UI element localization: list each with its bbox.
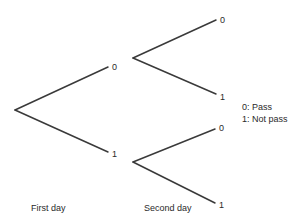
level-label-second-day: Second day bbox=[144, 203, 192, 213]
level-label-first-day: First day bbox=[31, 203, 66, 213]
edge-day1-0-to-day2-1 bbox=[133, 58, 216, 94]
edge-root-to-day1-1 bbox=[15, 110, 108, 152]
node-day1-0-label: 0 bbox=[112, 62, 117, 72]
legend-item-pass: 0: Pass bbox=[242, 102, 288, 114]
node-day2-00-label: 0 bbox=[220, 15, 225, 25]
edge-root-to-day1-0 bbox=[15, 67, 108, 110]
node-day1-1-label: 1 bbox=[112, 149, 117, 159]
node-day2-10-label: 0 bbox=[219, 123, 224, 133]
edge-day1-1-to-day2-0 bbox=[133, 129, 215, 162]
edge-day1-1-to-day2-1 bbox=[133, 162, 215, 203]
edge-day1-0-to-day2-0 bbox=[133, 20, 216, 58]
legend: 0: Pass 1: Not pass bbox=[242, 102, 288, 125]
node-day2-01-label: 1 bbox=[220, 92, 225, 102]
legend-item-not-pass: 1: Not pass bbox=[242, 114, 288, 126]
node-day2-11-label: 1 bbox=[219, 200, 224, 210]
